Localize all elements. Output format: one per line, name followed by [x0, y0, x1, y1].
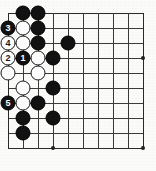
stone-black	[16, 6, 31, 21]
stone-black	[16, 111, 31, 126]
stone-white	[31, 66, 46, 81]
numbered-stone-5: 5	[1, 96, 16, 111]
stone-white	[16, 96, 31, 111]
stone-layer: 34215	[0, 0, 156, 171]
stone-white	[16, 21, 31, 36]
stone-black	[31, 21, 46, 36]
numbered-stone-1: 1	[16, 51, 31, 66]
go-board-diagram: 34215	[0, 0, 156, 171]
stone-black	[31, 6, 46, 21]
stone-move-number: 2	[5, 53, 10, 62]
stone-move-number: 1	[20, 53, 25, 62]
stone-move-number: 3	[5, 23, 10, 32]
numbered-stone-3: 3	[1, 21, 16, 36]
numbered-stone-4: 4	[1, 36, 16, 51]
stone-black	[31, 36, 46, 51]
stone-black	[46, 51, 61, 66]
stone-white	[1, 66, 16, 81]
stone-black	[46, 111, 61, 126]
stone-white	[16, 81, 31, 96]
stone-black	[31, 96, 46, 111]
stone-black	[46, 81, 61, 96]
stone-white	[31, 51, 46, 66]
stone-white	[16, 36, 31, 51]
stone-black	[61, 36, 76, 51]
stone-black	[16, 126, 31, 141]
stone-move-number: 5	[5, 98, 10, 107]
stone-move-number: 4	[5, 38, 10, 47]
numbered-stone-2: 2	[1, 51, 16, 66]
